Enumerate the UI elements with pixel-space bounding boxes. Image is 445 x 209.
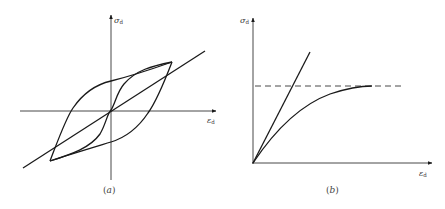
a-x-axis-label: εd — [207, 117, 215, 126]
figure-b — [252, 18, 432, 164]
a-backbone-line — [23, 51, 205, 168]
a-y-axis-label: σd — [114, 17, 123, 26]
b-caption: (b) — [326, 186, 339, 195]
b-initial-tangent-line — [253, 52, 310, 163]
figure-canvas — [0, 0, 445, 209]
b-backbone-curve — [253, 86, 372, 163]
b-y-axis-label: σd — [240, 17, 249, 26]
b-x-axis-label: εd — [419, 170, 427, 179]
figure-a — [20, 15, 216, 180]
a-caption: (a) — [103, 186, 115, 195]
